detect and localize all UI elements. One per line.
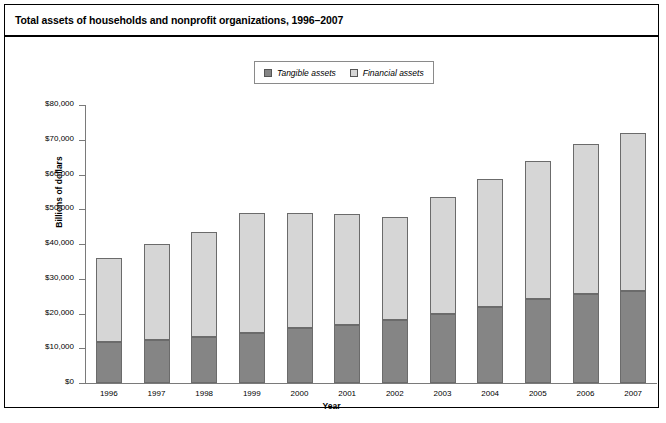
legend-label-financial: Financial assets [363,68,424,78]
bar-segment-tangible[interactable] [525,299,551,383]
bar-segment-tangible[interactable] [239,333,265,383]
legend-item-financial: Financial assets [350,68,424,78]
bar-segment-financial[interactable] [573,144,599,294]
bar-segment-tangible[interactable] [144,340,170,383]
chart-figure: Total assets of households and nonprofit… [4,4,659,408]
legend-swatch-financial-icon [350,69,358,77]
bar-segment-tangible[interactable] [382,320,408,383]
x-axis-tick-label: 2006 [563,389,609,398]
y-axis-tick-label: $80,000 [45,99,74,108]
y-axis-tick-label: $40,000 [45,238,74,247]
bar-segment-tangible[interactable] [191,337,217,383]
legend-label-tangible: Tangible assets [277,68,336,78]
y-axis-tick-label: $60,000 [45,169,74,178]
x-axis-tick-label: 2007 [610,389,656,398]
x-axis-tick-label: 1998 [181,389,227,398]
title-divider [5,35,658,37]
legend-item-tangible: Tangible assets [264,68,336,78]
x-axis-tick-label: 2000 [277,389,323,398]
x-axis-tick-label: 2002 [372,389,418,398]
bar-segment-tangible[interactable] [430,314,456,384]
bar-segment-tangible[interactable] [287,328,313,383]
bar-segment-financial[interactable] [525,161,551,299]
y-axis-title: Billions of dollars [54,132,64,252]
x-axis-tick-label: 1996 [86,389,132,398]
bar-segment-financial[interactable] [96,258,122,342]
bar-segment-tangible[interactable] [96,342,122,383]
chart-legend: Tangible assets Financial assets [254,61,434,84]
y-axis-tick-label: $70,000 [45,134,74,143]
y-axis-tick-label: $20,000 [45,308,74,317]
bar-segment-financial[interactable] [620,133,646,291]
bar-segment-financial[interactable] [287,213,313,328]
x-axis-tick-label: 2001 [324,389,370,398]
x-axis-tick-label: 2005 [515,389,561,398]
x-axis-line [85,383,657,384]
bar-segment-financial[interactable] [191,232,217,338]
x-axis-title: Year [5,401,658,411]
chart-title: Total assets of households and nonprofit… [15,14,343,26]
bar-segment-tangible[interactable] [477,307,503,383]
bar-segment-financial[interactable] [239,213,265,333]
x-axis-tick-label: 2004 [467,389,513,398]
y-axis-tick-label: $10,000 [45,342,74,351]
bar-segment-financial[interactable] [144,244,170,340]
bar-segment-financial[interactable] [430,197,456,314]
plot-area [85,105,657,383]
bar-segment-financial[interactable] [477,179,503,308]
y-axis-tick-label: $0 [65,377,74,386]
x-axis-tick-label: 1999 [229,389,275,398]
bar-segment-financial[interactable] [334,214,360,325]
x-axis-tick-label: 2003 [420,389,466,398]
bar-segment-financial[interactable] [382,217,408,320]
legend-swatch-tangible-icon [264,69,272,77]
bar-segment-tangible[interactable] [334,325,360,383]
y-axis-tick-label: $50,000 [45,203,74,212]
bar-segment-tangible[interactable] [573,294,599,383]
bar-segment-tangible[interactable] [620,291,646,383]
x-axis-tick-label: 1997 [134,389,180,398]
y-axis-tick-label: $30,000 [45,273,74,282]
